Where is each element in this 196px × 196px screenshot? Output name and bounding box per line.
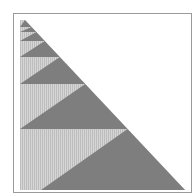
triangle-band-diagram — [0, 0, 196, 196]
